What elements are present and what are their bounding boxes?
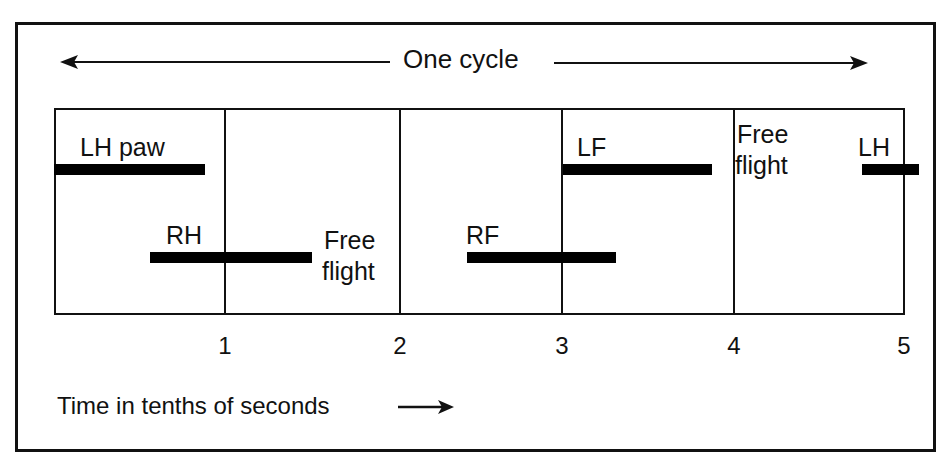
label-rh: RH [166, 221, 202, 249]
free-flight-2-line1: Free [737, 120, 788, 148]
label-rf: RF [466, 221, 499, 249]
cycle-right-arrow-icon [554, 53, 868, 73]
bar-rh [150, 252, 312, 263]
gridline-2 [399, 108, 401, 315]
free-flight-1-line1: Free [324, 226, 375, 254]
gridline-3 [561, 108, 563, 315]
free-flight-2-line2: flight [735, 151, 788, 179]
tick-4: 4 [727, 333, 740, 359]
free-flight-1-line2: flight [322, 257, 375, 285]
time-axis-arrow-icon [398, 398, 454, 416]
tick-3: 3 [555, 333, 568, 359]
bar-rf [467, 252, 616, 263]
label-lh: LH [858, 133, 890, 161]
gridline-1 [224, 108, 226, 315]
tick-2: 2 [393, 333, 406, 359]
bar-lh-paw [54, 164, 205, 175]
tick-1: 1 [218, 333, 231, 359]
cycle-title: One cycle [403, 45, 519, 73]
tick-5: 5 [897, 333, 910, 359]
label-lf: LF [577, 133, 606, 161]
bar-lh [862, 164, 919, 175]
bar-lf [563, 164, 712, 175]
cycle-left-arrow-icon [60, 52, 390, 72]
label-lh-paw: LH paw [80, 133, 165, 161]
time-axis-label: Time in tenths of seconds [57, 392, 330, 420]
gridline-4 [733, 108, 735, 315]
